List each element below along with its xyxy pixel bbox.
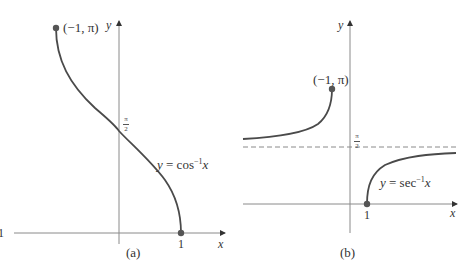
point-1-0-b: [364, 201, 370, 207]
half-pi-num-a: π: [124, 116, 128, 123]
point-1-0-a: [178, 230, 184, 236]
half-pi-den-b: 2: [355, 143, 359, 150]
half-pi-tick-a: π 2: [123, 116, 129, 133]
func-b-eq: = sec: [386, 175, 416, 190]
x-axis-label-a: x: [218, 238, 223, 250]
x-tick-one-b: 1: [364, 209, 370, 221]
y-axis-label-a: y: [106, 19, 111, 31]
x-axis-label-b: x: [450, 207, 455, 219]
func-a-eq: = cos: [163, 157, 194, 172]
half-pi-den-a: 2: [124, 126, 128, 133]
half-pi-tick-b: π 2: [354, 133, 360, 150]
left-stray-label: 1: [0, 227, 4, 239]
point-label-neg1-pi-a: (−1, π): [63, 21, 99, 34]
func-b-x: x: [425, 175, 431, 190]
func-a-x: x: [202, 157, 208, 172]
func-b-exp: −1: [416, 175, 425, 184]
caption-b: (b): [340, 246, 355, 259]
function-label-b: y = sec−1x: [380, 176, 431, 189]
y-axis-label-b: y: [338, 19, 343, 31]
point-label-neg1-pi-b: (−1, π): [313, 73, 349, 86]
graphs-canvas: [0, 0, 473, 274]
half-pi-num-b: π: [355, 133, 359, 140]
panel-a: [14, 21, 225, 244]
x-tick-one-a: 1: [178, 238, 184, 250]
arcsec-curve-left: [243, 89, 332, 139]
function-label-a: y = cos−1x: [157, 158, 208, 171]
caption-a: (a): [126, 246, 140, 259]
panel-b: [243, 21, 457, 233]
point-neg1-pi-a: [53, 25, 59, 31]
